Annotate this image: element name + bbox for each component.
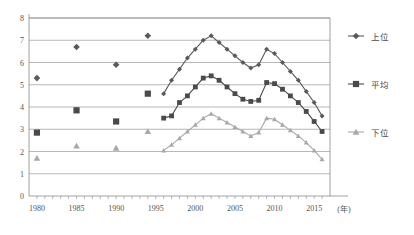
data-point-平均 <box>177 100 182 105</box>
data-point-平均 <box>161 116 166 121</box>
sparse-marker-平均 <box>34 129 40 135</box>
data-point-上位 <box>320 113 325 118</box>
y-axis-tick-label: 8 <box>20 14 24 23</box>
data-point-平均 <box>264 80 269 85</box>
sparse-marker-平均 <box>73 107 79 113</box>
sparse-marker-平均 <box>113 118 119 124</box>
y-axis-tick-label: 2 <box>20 148 24 157</box>
data-point-平均 <box>217 78 222 83</box>
data-point-上位 <box>161 91 166 96</box>
data-point-平均 <box>240 97 245 102</box>
y-axis-tick-label: 0 <box>20 192 24 201</box>
x-axis-tick-label: 1990 <box>108 204 124 213</box>
y-axis-tick-label: 5 <box>20 81 24 90</box>
x-axis-tick-label: 2005 <box>227 204 243 213</box>
data-point-平均 <box>201 76 206 81</box>
sparse-marker-下位 <box>113 145 120 151</box>
y-axis-tick-label: 1 <box>20 170 24 179</box>
data-point-平均 <box>209 73 214 78</box>
line-chart: 0123456781980198519901995200020052010201… <box>0 0 414 235</box>
data-point-平均 <box>288 93 293 98</box>
sparse-marker-下位 <box>73 143 80 149</box>
data-point-平均 <box>296 100 301 105</box>
data-point-平均 <box>280 87 285 92</box>
data-point-平均 <box>169 114 174 119</box>
chart-page: 0123456781980198519901995200020052010201… <box>0 0 414 235</box>
data-point-上位 <box>264 47 269 52</box>
x-axis-tick-label: 2000 <box>187 204 203 213</box>
data-point-平均 <box>272 81 277 86</box>
data-point-下位 <box>209 111 214 116</box>
data-point-下位 <box>240 129 245 134</box>
data-point-平均 <box>312 119 317 124</box>
data-point-平均 <box>256 98 261 103</box>
sparse-marker-上位 <box>73 44 80 51</box>
data-point-平均 <box>320 129 325 134</box>
x-axis-tick-label: 1985 <box>69 204 85 213</box>
data-point-下位 <box>232 125 237 129</box>
y-axis-tick-label: 6 <box>20 59 24 68</box>
x-axis-tick-label: 2010 <box>267 204 283 213</box>
x-axis-tick-label: 1995 <box>148 204 164 213</box>
legend-label-平均: 平均 <box>371 80 389 90</box>
y-axis-tick-label: 4 <box>20 103 24 112</box>
data-point-上位 <box>256 62 261 67</box>
x-axis-unit-label: (年) <box>337 204 351 214</box>
y-axis-tick-label: 3 <box>20 125 24 134</box>
data-point-下位 <box>256 130 261 135</box>
data-point-下位 <box>217 116 222 121</box>
y-axis-tick-label: 7 <box>20 36 24 45</box>
sparse-marker-上位 <box>145 33 152 40</box>
data-point-下位 <box>201 116 206 121</box>
data-point-平均 <box>233 91 238 96</box>
data-point-平均 <box>225 85 230 90</box>
x-axis-tick-label: 2015 <box>306 204 322 213</box>
legend-label-上位: 上位 <box>371 32 389 42</box>
data-point-平均 <box>193 85 198 90</box>
legend-marker-上位 <box>353 33 360 40</box>
legend-marker-平均 <box>353 81 359 87</box>
x-axis-tick-label: 1980 <box>29 204 45 213</box>
data-point-平均 <box>185 93 190 98</box>
data-point-下位 <box>225 120 230 125</box>
sparse-marker-上位 <box>34 75 41 82</box>
sparse-marker-平均 <box>145 91 151 97</box>
data-point-平均 <box>248 99 253 104</box>
legend-label-下位: 下位 <box>371 128 389 138</box>
sparse-marker-下位 <box>34 155 41 161</box>
data-point-平均 <box>304 109 309 114</box>
